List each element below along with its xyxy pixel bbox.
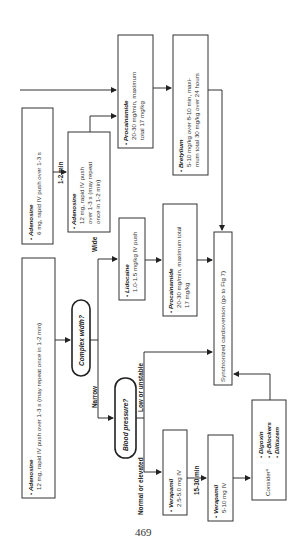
consider-text: Considera [264, 468, 271, 496]
svg-text:Complex width?: Complex width? [78, 315, 86, 366]
svg-text:• Adenosine: • Adenosine [70, 193, 77, 229]
label-1-2-min: 1-2 min [57, 162, 64, 184]
svg-text:12 mg, rapid IV push over 1-3: 12 mg, rapid IV push over 1-3 s (may rep… [35, 323, 42, 490]
svg-text:5-10 mg IV: 5-10 mg IV [220, 482, 227, 513]
label-narrow: Narrow [91, 386, 98, 408]
svg-text:• Procainamide: • Procainamide [167, 268, 174, 313]
svg-text:Normal or elevated: Normal or elevated [137, 457, 144, 515]
svg-text:• Verapamil: • Verapamil [212, 484, 219, 518]
arrow-low-to-cardioversion [144, 352, 212, 418]
svg-text:20-30 mg/min, maximum: 20-30 mg/min, maximum [130, 72, 137, 140]
arrow-consider-to-cardioversion [234, 374, 270, 400]
svg-text:6 mg, rapid IV push over 1-3 s: 6 mg, rapid IV push over 1-3 s [35, 152, 42, 235]
cardioversion-text: Synchronized cardioversion (go to Fig 7) [219, 271, 226, 382]
arrow-adenosine12-to-procainamide [90, 116, 116, 132]
svg-text:• Procainamide: • Procainamide [122, 100, 129, 145]
svg-text:once in 1-2 min): once in 1-2 min) [94, 180, 101, 224]
svg-text:Wide: Wide [91, 236, 98, 252]
svg-text:Low or unstable: Low or unstable [137, 363, 144, 412]
svg-text:total 17 mg/kg: total 17 mg/kg [138, 101, 145, 140]
svg-text:5-10 mg/kg over 8-10 min, maxi: 5-10 mg/kg over 8-10 min, maxi- [185, 78, 192, 167]
svg-text:• Digoxin: • Digoxin [257, 431, 264, 458]
flowchart: • Adenosine 6 mg, rapid IV push over 1-3… [0, 0, 306, 548]
arrow-bretylium-to-cardioversion [208, 90, 222, 230]
svg-text:• Lidocaine: • Lidocaine [123, 264, 130, 297]
svg-text:17 mg/kg: 17 mg/kg [183, 282, 190, 308]
label-wide: Wide [91, 236, 98, 252]
svg-text:15-30 min: 15-30 min [193, 465, 200, 495]
svg-text:Synchronized cardioversion (go: Synchronized cardioversion (go to Fig 7) [219, 271, 226, 382]
label-normal-or-elevated: Normal or elevated [137, 457, 144, 515]
svg-text:2.5-5.0 mg IV: 2.5-5.0 mg IV [175, 469, 182, 507]
svg-text:over 1-3 s (may repeat: over 1-3 s (may repeat [86, 161, 93, 224]
svg-text:mum total 30 mg/kg over 24 hou: mum total 30 mg/kg over 24 hours [193, 73, 200, 167]
svg-text:• β-Blockers: • β-Blockers [265, 421, 272, 458]
svg-text:12 mg, rapid IV push: 12 mg, rapid IV push [78, 166, 85, 224]
label-low-or-unstable: Low or unstable [137, 363, 144, 412]
svg-text:Considera: Considera [264, 468, 271, 496]
svg-text:Narrow: Narrow [91, 386, 98, 408]
svg-text:• Adenosine: • Adenosine [27, 204, 34, 240]
verapamil-2-text: • Verapamil 5-10 mg IV [212, 482, 227, 518]
svg-text:20-30 mg/min, maximum total: 20-30 mg/min, maximum total [175, 227, 182, 309]
svg-text:• Adenosine: • Adenosine [27, 459, 34, 495]
svg-text:• Bretylium: • Bretylium [177, 139, 184, 172]
page-number: 469 [135, 526, 152, 538]
svg-text:1-2 min: 1-2 min [57, 162, 64, 184]
label-15-30-min: 15-30 min [193, 465, 200, 495]
svg-text:• Diltiazem: • Diltiazem [273, 426, 280, 458]
svg-text:• Verapamil: • Verapamil [167, 478, 174, 512]
arrow-wide-to-lidocaine [98, 259, 117, 340]
svg-text:1.0-1.5 mg/kg IV push: 1.0-1.5 mg/kg IV push [131, 231, 138, 292]
svg-text:Blood pressure?: Blood pressure? [122, 399, 130, 451]
arrow-normal-to-verapamil [144, 418, 161, 472]
blood-pressure-label: Blood pressure? [122, 399, 130, 451]
arrow-narrow-to-blood-pressure [98, 340, 113, 418]
complex-width-label: Complex width? [78, 315, 86, 366]
